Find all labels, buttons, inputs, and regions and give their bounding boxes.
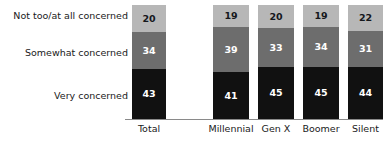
bar-segment-value: 19 — [213, 5, 249, 27]
bar-millennial[interactable]: 19 39 41 — [213, 5, 249, 119]
bar-segment-value: 44 — [348, 67, 383, 119]
bar-segment-value: 22 — [348, 5, 383, 31]
bar-segment-value: 20 — [132, 5, 166, 32]
axis-baseline — [125, 119, 383, 120]
bar-segment-value: 33 — [258, 28, 294, 66]
bar-total[interactable]: 20 34 43 — [132, 5, 166, 119]
bar-boomer[interactable]: 19 34 45 — [303, 5, 339, 119]
bar-segment-value: 41 — [213, 72, 249, 119]
series-label-very-concerned: Very concerned — [54, 91, 128, 101]
bar-segment-value: 19 — [303, 5, 339, 27]
bar-segment-value: 34 — [303, 27, 339, 67]
plot-area: 20 34 43 19 39 41 20 33 45 19 34 45 22 3… — [132, 5, 383, 119]
series-label-somewhat-concerned: Somewhat concerned — [25, 48, 128, 58]
axis-tick-silent: Silent — [344, 124, 387, 134]
bar-segment-value: 31 — [348, 31, 383, 67]
series-label-not-too-concerned: Not too/at all concerned — [13, 11, 128, 21]
stacked-bar-chart: Not too/at all concerned Somewhat concer… — [0, 0, 388, 143]
bar-segment-value: 45 — [303, 67, 339, 119]
axis-tick-gen-x: Gen X — [254, 124, 298, 134]
bar-segment-value: 39 — [213, 27, 249, 72]
bar-silent[interactable]: 22 31 44 — [348, 5, 383, 119]
axis-tick-total: Total — [132, 124, 166, 134]
bar-segment-value: 20 — [258, 5, 294, 28]
bar-segment-value: 34 — [132, 32, 166, 70]
bar-gen-x[interactable]: 20 33 45 — [258, 5, 294, 119]
axis-tick-boomer: Boomer — [299, 124, 343, 134]
bar-segment-value: 45 — [258, 67, 294, 119]
bar-segment-value: 43 — [132, 69, 166, 119]
axis-tick-millennial: Millennial — [207, 124, 255, 134]
